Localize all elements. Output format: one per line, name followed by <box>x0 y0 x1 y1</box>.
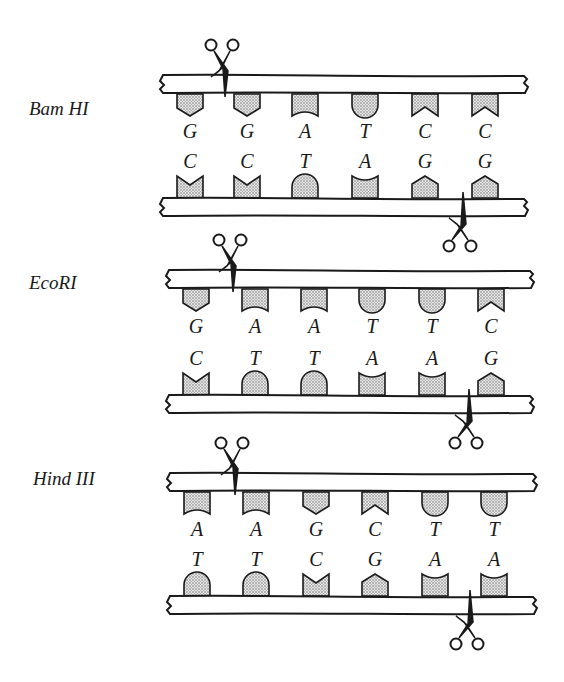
top-base-shape <box>478 289 504 311</box>
top-base-letter: A <box>244 518 268 541</box>
bottom-base-shape <box>301 371 327 395</box>
top-base-shape <box>481 492 507 516</box>
top-base-shape <box>412 94 438 116</box>
top-base-letter: A <box>293 120 317 143</box>
top-base-letter: C <box>473 120 497 143</box>
bottom-base-letter: G <box>363 548 387 571</box>
top-base-shape <box>177 94 203 116</box>
top-base-letter: G <box>178 120 202 143</box>
top-base-shape <box>303 492 329 514</box>
enzyme-label: EcoRI <box>29 272 76 294</box>
top-base-letter: T <box>420 315 444 338</box>
bottom-base-letter: T <box>185 548 209 571</box>
top-dna-strand <box>167 473 537 491</box>
bottom-dna-strand <box>166 395 534 413</box>
bottom-base-letter: C <box>184 347 208 370</box>
bottom-base-letter: A <box>420 347 444 370</box>
bottom-base-letter: G <box>473 150 497 173</box>
top-base-letter: T <box>482 518 506 541</box>
bottom-base-shape <box>472 176 498 198</box>
bottom-base-letter: A <box>360 347 384 370</box>
bottom-base-shape <box>243 572 269 596</box>
bottom-base-letter: A <box>423 548 447 571</box>
top-base-shape <box>472 94 498 116</box>
top-base-letter: C <box>413 120 437 143</box>
bottom-base-shape <box>478 373 504 395</box>
bottom-base-shape <box>183 373 209 395</box>
top-base-shape <box>242 289 268 311</box>
enzyme-label: Hind III <box>33 468 95 490</box>
top-base-letter: A <box>243 315 267 338</box>
bottom-base-shape <box>412 176 438 198</box>
top-base-letter: G <box>184 315 208 338</box>
top-base-shape <box>183 289 209 311</box>
bottom-base-letter: A <box>482 548 506 571</box>
top-base-letter: G <box>235 120 259 143</box>
enzyme-label: Bam HI <box>29 98 89 120</box>
bottom-dna-strand <box>167 596 537 614</box>
bottom-base-shape <box>292 174 318 198</box>
bottom-dna-strand <box>160 198 528 216</box>
bottom-base-letter: T <box>243 347 267 370</box>
top-base-letter: G <box>304 518 328 541</box>
bottom-base-letter: G <box>413 150 437 173</box>
bottom-base-letter: C <box>235 150 259 173</box>
bottom-base-letter: G <box>479 347 503 370</box>
bottom-base-shape <box>481 574 507 596</box>
bottom-base-shape <box>359 373 385 395</box>
top-base-letter: T <box>360 315 384 338</box>
bottom-base-shape <box>242 371 268 395</box>
bottom-base-shape <box>177 176 203 198</box>
bottom-base-shape <box>419 373 445 395</box>
top-dna-strand <box>166 270 534 288</box>
bottom-base-shape <box>234 176 260 198</box>
top-base-shape <box>352 94 378 118</box>
top-base-letter: T <box>353 120 377 143</box>
top-base-letter: T <box>423 518 447 541</box>
top-base-shape <box>301 289 327 311</box>
bottom-base-shape <box>352 176 378 198</box>
top-base-shape <box>234 94 260 116</box>
top-base-letter: C <box>363 518 387 541</box>
top-base-shape <box>292 94 318 116</box>
top-dna-strand <box>160 75 528 93</box>
bottom-base-shape <box>303 574 329 596</box>
top-base-shape <box>359 289 385 313</box>
top-base-shape <box>362 492 388 514</box>
bottom-base-letter: T <box>293 150 317 173</box>
top-base-shape <box>243 492 269 514</box>
bottom-base-letter: C <box>178 150 202 173</box>
top-base-shape <box>422 492 448 516</box>
top-base-shape <box>184 492 210 514</box>
bottom-base-letter: A <box>353 150 377 173</box>
bottom-base-shape <box>362 574 388 596</box>
bottom-base-letter: T <box>302 347 326 370</box>
bottom-base-letter: C <box>304 548 328 571</box>
top-base-shape <box>419 289 445 313</box>
bottom-base-shape <box>184 572 210 596</box>
top-base-letter: A <box>185 518 209 541</box>
bottom-base-letter: T <box>244 548 268 571</box>
top-base-letter: C <box>479 315 503 338</box>
bottom-base-shape <box>422 574 448 596</box>
top-base-letter: A <box>302 315 326 338</box>
